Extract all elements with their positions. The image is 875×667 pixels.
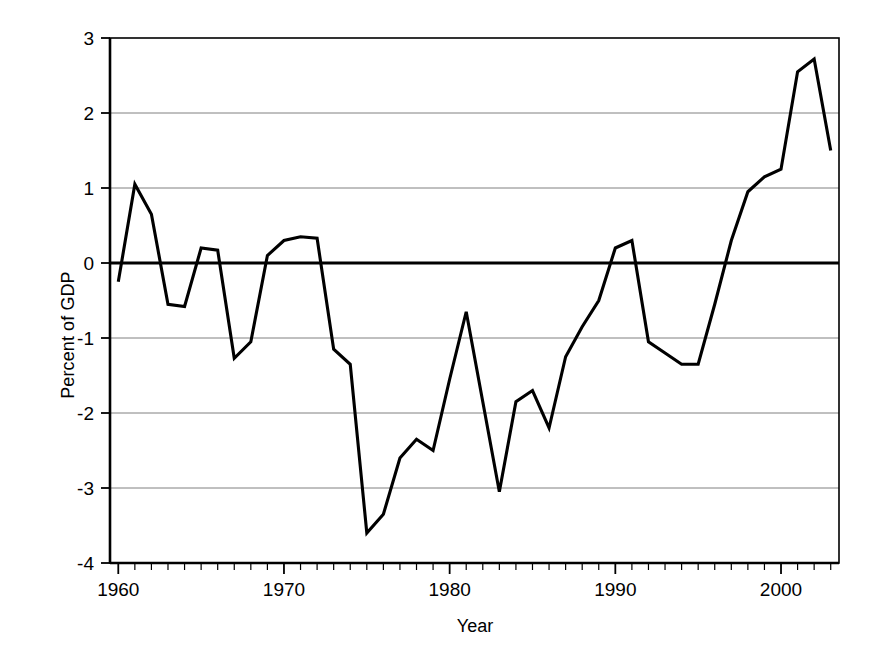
plot-area: -4-3-2-10123 19601970198019902000 (0, 0, 875, 667)
y-tick-label: -3 (77, 478, 94, 499)
x-axis-tick-labels: 19601970198019902000 (97, 579, 802, 600)
y-tick-label: -2 (77, 403, 94, 424)
y-axis-tick-labels: -4-3-2-10123 (77, 28, 94, 574)
y-tick-label: -1 (77, 328, 94, 349)
data-line-series (118, 59, 830, 533)
y-tick-label: 1 (83, 178, 94, 199)
x-tick-label: 1960 (97, 579, 139, 600)
y-tick-label: -4 (77, 553, 94, 574)
axis-major-ticks (101, 38, 781, 574)
y-tick-label: 2 (83, 103, 94, 124)
x-tick-label: 1990 (594, 579, 636, 600)
x-tick-label: 2000 (760, 579, 802, 600)
chart-figure: Percent of GDP -4-3-2-10123 196019701980… (0, 0, 875, 667)
x-tick-label: 1970 (263, 579, 305, 600)
x-tick-label: 1980 (429, 579, 471, 600)
plot-frame (110, 38, 839, 563)
y-tick-label: 0 (83, 253, 94, 274)
gridlines (110, 113, 839, 488)
x-axis-title: Year (110, 616, 840, 637)
y-tick-label: 3 (83, 28, 94, 49)
